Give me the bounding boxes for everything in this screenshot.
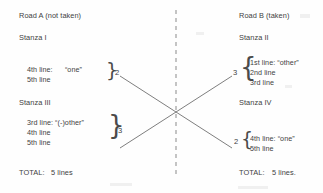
- left-stanza-bottom-count: 3: [118, 126, 122, 135]
- scan-speckle: [285, 85, 292, 88]
- scan-speckle: [238, 186, 268, 189]
- right-stanza-top-line-1: 1st line: “other”: [250, 58, 299, 68]
- left-stanza-bottom-line-2: 4th line: [27, 128, 51, 138]
- diagonal-left-bottom-to-right-top: [120, 76, 232, 148]
- left-stanza-bottom-label: Stanza III: [19, 98, 51, 107]
- left-stanza-top-line-1: 4th line: “one”: [27, 65, 82, 75]
- left-stanza-bottom-line-1: 3rd line: “(-)other”: [27, 118, 84, 128]
- left-column-title: Road A (not taken): [19, 11, 81, 20]
- left-stanza-top-count: 2: [115, 68, 119, 77]
- right-stanza-top-count: 3: [233, 68, 237, 77]
- right-total-label: TOTAL:: [239, 168, 265, 177]
- left-total-label: TOTAL:: [19, 168, 45, 177]
- right-column-title: Road B (taken): [239, 11, 289, 20]
- scan-speckle: [196, 32, 204, 35]
- diagram-lines: [0, 0, 323, 193]
- left-stanza-bottom-line-3: 5th line: [27, 138, 51, 148]
- scan-speckle: [110, 183, 132, 186]
- right-stanza-top-line-3: 3rd line: [250, 78, 274, 88]
- left-stanza-top-line-2: 5th line: [27, 75, 51, 85]
- right-stanza-bottom-line-2: 5th line: [250, 144, 274, 154]
- left-total-value: 5 lines: [51, 168, 73, 177]
- left-stanza-top-label: Stanza I: [19, 33, 47, 42]
- road-comparison-diagram: Road A (not taken) Stanza I 4th line: “o…: [0, 0, 323, 193]
- scan-speckle: [300, 14, 310, 18]
- right-stanza-bottom-line-1: 4th line: “one”: [250, 134, 295, 144]
- right-stanza-top-label: Stanza II: [239, 33, 269, 42]
- right-stanza-bottom-label: Stanza IV: [239, 98, 272, 107]
- right-stanza-top-line-2: 2nd line: [250, 68, 276, 78]
- diagonal-left-top-to-right-bottom: [120, 76, 232, 148]
- right-stanza-bottom-count: 2: [234, 137, 238, 146]
- right-total-value: 5 lines.: [272, 168, 296, 177]
